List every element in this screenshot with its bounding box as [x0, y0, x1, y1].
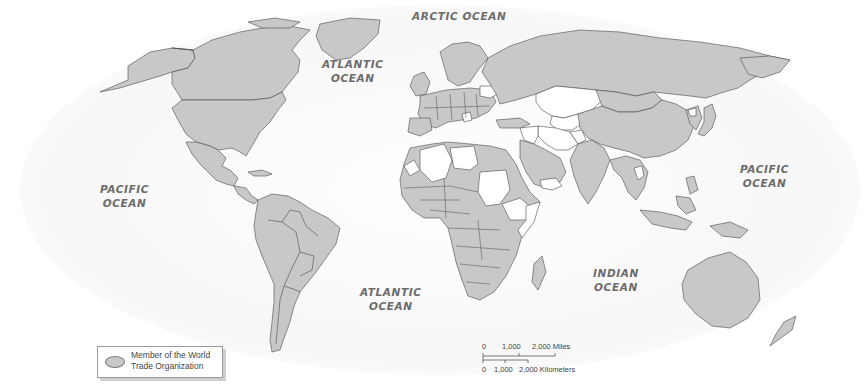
new-zealand — [770, 316, 796, 346]
scale-miles-1000: 1,000 — [502, 342, 521, 351]
ocean-label-atlantic-south: ATLANTICOCEAN — [360, 285, 421, 313]
scale-bar-lines — [478, 353, 568, 365]
ocean-label-pacific-east: PACIFICOCEAN — [740, 162, 789, 190]
map-legend: Member of the WorldTrade Organization — [97, 346, 223, 378]
scale-km-2000: 2,000 Kilometers — [519, 365, 575, 374]
legend-label: Member of the WorldTrade Organization — [131, 350, 210, 372]
member-swatch — [105, 356, 125, 368]
scale-km-1000: 1,000 — [494, 365, 513, 374]
world-map: ARCTIC OCEAN ATLANTICOCEAN PACIFICOCEAN … — [0, 0, 867, 385]
ocean-label-pacific-west: PACIFICOCEAN — [100, 182, 149, 210]
scale-miles-0: 0 — [482, 342, 486, 351]
scale-km-0: 0 — [482, 365, 486, 374]
libya — [450, 146, 478, 170]
balkan-nonmember — [462, 112, 472, 122]
ocean-label-arctic: ARCTIC OCEAN — [412, 9, 506, 23]
scale-miles-2000: 2,000 Miles — [532, 342, 570, 351]
ocean-label-atlantic-north: ATLANTICOCEAN — [322, 57, 383, 85]
scale-bar: 0 1,000 2,000 Miles 0 1,000 2,000 Kilome… — [478, 340, 608, 380]
ocean-label-indian: INDIANOCEAN — [593, 266, 639, 294]
